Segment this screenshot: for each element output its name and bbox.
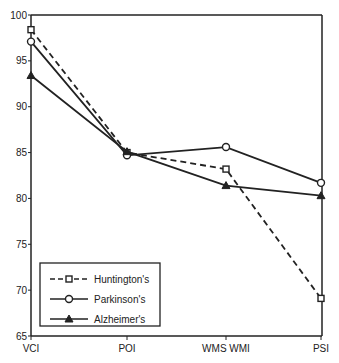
series-huntington-s	[28, 27, 324, 302]
y-tick-label: 65	[16, 331, 28, 342]
x-tick-label: WMS WMI	[202, 343, 250, 354]
circle-marker-icon	[28, 38, 35, 45]
y-tick-label: 95	[16, 55, 28, 66]
series-line	[31, 30, 321, 299]
legend-label: Huntington's	[94, 274, 149, 285]
y-axis: 65707580859095100	[10, 10, 31, 342]
legend-label: Parkinson's	[94, 294, 145, 305]
y-tick-label: 75	[16, 239, 28, 250]
square-marker-icon	[318, 295, 324, 301]
x-tick-label: VCI	[23, 343, 40, 354]
y-tick-label: 85	[16, 147, 28, 158]
circle-marker-icon	[318, 179, 325, 186]
square-marker-icon	[66, 276, 72, 282]
y-tick-label: 80	[16, 193, 28, 204]
series-layer	[27, 27, 325, 302]
y-tick-label: 100	[10, 10, 27, 21]
circle-marker-icon	[223, 144, 230, 151]
x-tick-label: POI	[118, 343, 135, 354]
circle-marker-icon	[66, 296, 73, 303]
square-marker-icon	[223, 166, 229, 172]
x-axis: VCIPOIWMS WMIPSI	[23, 336, 329, 354]
line-chart: 65707580859095100 VCIPOIWMS WMIPSI Hunti…	[0, 0, 339, 363]
legend-label: Alzheimer's	[94, 314, 145, 325]
triangle-marker-icon	[27, 72, 35, 79]
y-tick-label: 90	[16, 101, 28, 112]
series-parkinson-s	[28, 38, 325, 186]
square-marker-icon	[28, 27, 34, 33]
x-tick-label: PSI	[313, 343, 329, 354]
y-tick-label: 70	[16, 285, 28, 296]
legend: Huntington'sParkinson'sAlzheimer's	[40, 263, 160, 326]
